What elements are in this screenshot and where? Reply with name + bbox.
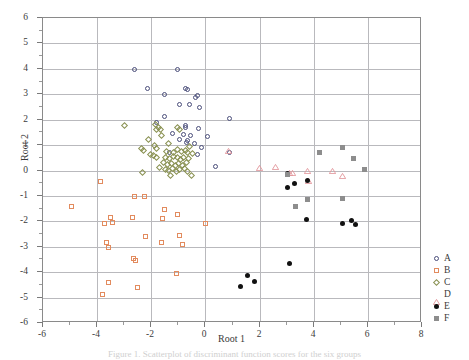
gridline-horizontal (43, 120, 420, 121)
y-tick-minor (39, 208, 42, 209)
data-point-a (185, 87, 190, 92)
gridline-vertical (97, 18, 98, 321)
legend-item-a[interactable]: A (430, 252, 468, 264)
data-point-c (121, 122, 128, 129)
y-tick-label: 6 (23, 12, 28, 22)
data-point-c (174, 146, 181, 153)
data-point-a (185, 138, 190, 143)
y-tick-label: -5 (20, 292, 28, 302)
data-point-b (69, 204, 74, 209)
legend-label: E (442, 300, 450, 312)
y-tick-minor (39, 55, 42, 56)
data-point-c (168, 160, 175, 167)
legend-marker-circle-open-icon (430, 252, 442, 264)
data-point-e (285, 185, 290, 190)
data-point-e (305, 178, 310, 183)
data-point-f (293, 204, 298, 209)
data-point-a (213, 164, 218, 169)
data-point-c (167, 172, 174, 179)
data-point-a (187, 102, 192, 107)
data-point-c (140, 147, 147, 154)
x-tick-minor (340, 322, 341, 325)
data-point-c (184, 149, 191, 156)
data-point-b (162, 207, 167, 212)
data-point-a (145, 86, 150, 91)
y-tick-label: -1 (20, 190, 28, 200)
data-point-a (183, 125, 188, 130)
data-point-a (196, 126, 201, 131)
data-point-f (305, 197, 310, 202)
data-point-c (174, 124, 181, 131)
legend-item-e[interactable]: E (430, 300, 468, 312)
legend-marker-diamond-open-icon (430, 276, 442, 288)
legend-marker-square-open-icon (430, 264, 442, 276)
data-point-a (197, 105, 202, 110)
data-point-a (188, 133, 193, 138)
x-tick-mark (313, 322, 314, 327)
x-tick-minor (232, 322, 233, 325)
data-point-c (158, 132, 165, 139)
gridline-vertical (205, 18, 206, 321)
legend-item-f[interactable]: F (430, 312, 468, 324)
legend-marker-triangle-open-icon (430, 288, 442, 300)
data-point-c (152, 121, 159, 128)
data-point-c (153, 154, 160, 161)
data-point-c (153, 126, 160, 133)
legend-label: A (442, 252, 451, 264)
figure-caption: Figure 1. Scatterplot of discriminant fu… (0, 349, 469, 360)
data-point-b (104, 240, 109, 245)
y-tick-minor (39, 182, 42, 183)
data-point-e (245, 273, 250, 278)
data-point-b (106, 280, 111, 285)
data-point-c (178, 148, 185, 155)
y-axis-ticks: -6-5-4-3-2-10123456 (30, 17, 42, 322)
data-point-a (177, 137, 182, 142)
data-point-d (304, 160, 311, 178)
legend-item-b[interactable]: B (430, 264, 468, 276)
data-point-f (340, 145, 345, 150)
data-point-a (181, 132, 186, 137)
data-point-d (305, 170, 312, 188)
y-tick-mark (37, 119, 42, 120)
x-tick-minor (177, 322, 178, 325)
y-tick-mark (37, 93, 42, 94)
gridline-horizontal (43, 69, 420, 70)
data-point-a (177, 102, 182, 107)
data-point-b (143, 234, 148, 239)
data-point-a (170, 131, 175, 136)
data-point-e (292, 181, 297, 186)
y-tick-minor (39, 309, 42, 310)
data-point-a (195, 152, 200, 157)
gridline-vertical (151, 18, 152, 321)
data-point-c (183, 159, 190, 166)
data-point-c (160, 159, 167, 166)
y-tick-mark (37, 271, 42, 272)
y-tick-label: 5 (23, 37, 28, 47)
data-point-a (183, 86, 188, 91)
gridline-horizontal (43, 94, 420, 95)
data-point-b (98, 179, 103, 184)
legend-item-d[interactable]: D (430, 288, 468, 300)
data-point-c (189, 150, 196, 157)
x-tick-mark (96, 322, 97, 327)
y-tick-mark (37, 144, 42, 145)
y-tick-minor (39, 81, 42, 82)
data-point-b (100, 292, 105, 297)
x-axis-label: Root 1 (42, 333, 421, 344)
legend-label: C (442, 276, 450, 288)
y-tick-label: -3 (20, 241, 28, 251)
legend-label: B (442, 264, 450, 276)
x-tick-mark (204, 322, 205, 327)
legend-label: F (442, 312, 449, 324)
data-point-b (133, 258, 138, 263)
data-point-f (340, 196, 345, 201)
legend-marker-square-fill-icon (430, 312, 442, 324)
x-tick-minor (286, 322, 287, 325)
data-point-f (285, 172, 290, 177)
data-point-c (173, 154, 180, 161)
data-point-c (172, 162, 179, 169)
data-point-a (167, 150, 172, 155)
y-tick-minor (39, 157, 42, 158)
legend-item-c[interactable]: C (430, 276, 468, 288)
data-point-a (183, 123, 188, 128)
